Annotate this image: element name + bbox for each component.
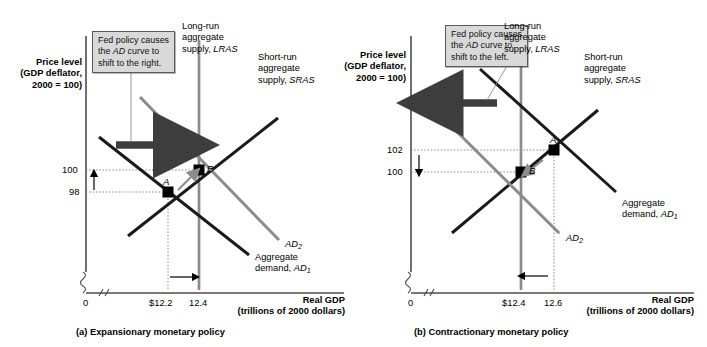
panel-b-caption: (b) Contractionary monetary policy xyxy=(414,327,568,337)
lras-line3: supply, LRAS xyxy=(182,44,238,55)
panel-b-origin-label: 0 xyxy=(408,297,413,308)
callout-line-2: the AD curve to xyxy=(98,46,169,57)
y-axis-title-line1: Price level xyxy=(326,50,406,61)
panel-a-sras-label: Short-run aggregate supply, SRAS xyxy=(258,52,315,86)
panel-a-point-b-label: B xyxy=(207,163,213,174)
sras-line2: aggregate xyxy=(258,63,315,74)
lras-line3: supply, LRAS xyxy=(504,44,560,55)
ad1-abbrev: AD xyxy=(294,263,307,273)
panel-a-xtick-12-4: 12.4 xyxy=(189,297,207,308)
y-axis-title-line2: (GDP deflator, xyxy=(2,68,82,79)
panel-a-point-a-label: A xyxy=(163,176,169,187)
panel-b-ad1-label: Aggregate demand, AD1 xyxy=(622,198,678,223)
panel-b-point-b-label: B xyxy=(529,165,535,176)
lras-line1: Long-run xyxy=(504,21,560,32)
x-axis-title-line1: Real GDP xyxy=(215,295,345,306)
ad1-line2: demand, AD1 xyxy=(255,263,311,276)
ad1-subscript: 1 xyxy=(674,212,678,221)
panel-a-ad2-label: AD2 xyxy=(285,239,302,252)
equilibrium-point-b xyxy=(194,165,205,176)
ad2-label-leader xyxy=(272,233,279,240)
panel-a-y-axis-title: Price level (GDP deflator, 2000 = 100) xyxy=(2,57,82,91)
y-axis-title-line3: 2000 = 100) xyxy=(2,80,82,91)
lras-line2: aggregate xyxy=(182,32,238,43)
lras-line2: aggregate xyxy=(504,32,560,43)
panel-b-y-axis-title: Price level (GDP deflator, 2000 = 100) xyxy=(326,50,406,84)
panel-expansionary-monetary-policy: Price level (GDP deflator, 2000 = 100) 1… xyxy=(0,0,353,347)
equilibrium-point-b xyxy=(516,167,527,178)
ad1-subscript: 1 xyxy=(307,266,311,275)
panel-b-ad2-label: AD2 xyxy=(566,233,583,246)
sras-line2: aggregate xyxy=(584,63,641,74)
panel-a-callout: Fed policy causes the AD curve to shift … xyxy=(92,31,175,73)
sras-abbrev: SRAS xyxy=(615,75,640,85)
ad2-subscript: 2 xyxy=(579,236,583,245)
x-axis-title-line2: (trillions of 2000 dollars) xyxy=(564,306,694,317)
callout-line2-post: curve to xyxy=(125,46,159,56)
ad1-line2-pre: demand, xyxy=(622,209,661,219)
callout-line-3: shift to the right. xyxy=(98,58,169,69)
lras-abbrev: LRAS xyxy=(535,44,559,54)
panel-a-guides xyxy=(86,170,199,290)
panel-b-sras-label: Short-run aggregate supply, SRAS xyxy=(584,52,641,86)
panel-a-origin-label: 0 xyxy=(83,297,88,308)
sras-line3: supply, SRAS xyxy=(258,75,315,86)
y-axis-title-line2: (GDP deflator, xyxy=(326,61,406,72)
equilibrium-point-a xyxy=(163,187,174,198)
panel-a-ytick-100: 100 xyxy=(62,164,78,175)
ad2-text: AD xyxy=(285,239,298,249)
ad1-line2: demand, AD1 xyxy=(622,209,678,222)
ad1-line1: Aggregate xyxy=(255,252,311,263)
callout-line2-pre: the xyxy=(451,40,466,50)
callout-line-1: Fed policy causes xyxy=(98,35,169,46)
ad1-line2-pre: demand, xyxy=(255,263,294,273)
curve-ad1 xyxy=(99,137,249,255)
sras-abbrev: SRAS xyxy=(289,75,314,85)
panel-b-lras-label: Long-run aggregate supply, LRAS xyxy=(504,21,560,55)
y-axis-title-line3: 2000 = 100) xyxy=(326,73,406,84)
panel-a-caption: (a) Expansionary monetary policy xyxy=(76,327,225,337)
lras-abbrev: LRAS xyxy=(213,44,237,54)
panel-b-xtick-12-6: 12.6 xyxy=(544,297,562,308)
sras-line1: Short-run xyxy=(258,52,315,63)
panel-a-ad1-label: Aggregate demand, AD1 xyxy=(255,252,311,277)
panel-a-xtick-12-2: $12.2 xyxy=(149,297,172,308)
callout-line2-em: AD xyxy=(466,40,478,50)
panel-b-xtick-12-4: $12.4 xyxy=(502,297,525,308)
panel-a-lras-label: Long-run aggregate supply, LRAS xyxy=(182,21,238,55)
x-axis-title-line1: Real GDP xyxy=(564,295,694,306)
lras-line3-pre: supply, xyxy=(504,44,535,54)
lras-line1: Long-run xyxy=(182,21,238,32)
sras-line3-pre: supply, xyxy=(584,75,615,85)
x-axis-title-line2: (trillions of 2000 dollars) xyxy=(215,306,345,317)
sras-line3: supply, SRAS xyxy=(584,75,641,86)
sras-line3-pre: supply, xyxy=(258,75,289,85)
panel-a-ytick-98: 98 xyxy=(69,186,79,197)
panel-b-ytick-102: 102 xyxy=(387,144,403,155)
panel-contractionary-monetary-policy: Price level (GDP deflator, 2000 = 100) 1… xyxy=(354,0,707,347)
callout-line2-em: AD xyxy=(113,46,125,56)
ad2-text: AD xyxy=(566,233,579,243)
callout-leader-line xyxy=(487,66,507,100)
panel-a-x-axis-title: Real GDP (trillions of 2000 dollars) xyxy=(215,295,345,318)
sras-line1: Short-run xyxy=(584,52,641,63)
y-axis-title-line1: Price level xyxy=(2,57,82,68)
ad1-abbrev: AD xyxy=(661,209,674,219)
panel-b-point-a-label: A xyxy=(550,134,556,145)
ad1-line1: Aggregate xyxy=(622,198,678,209)
ad2-subscript: 2 xyxy=(298,242,302,251)
panel-b-x-axis-title: Real GDP (trillions of 2000 dollars) xyxy=(564,295,694,318)
callout-line2-pre: the xyxy=(98,46,113,56)
panel-b-axes xyxy=(406,36,695,296)
panel-b-ytick-100: 100 xyxy=(387,166,403,177)
equilibrium-point-a xyxy=(549,145,560,156)
lras-line3-pre: supply, xyxy=(182,44,213,54)
